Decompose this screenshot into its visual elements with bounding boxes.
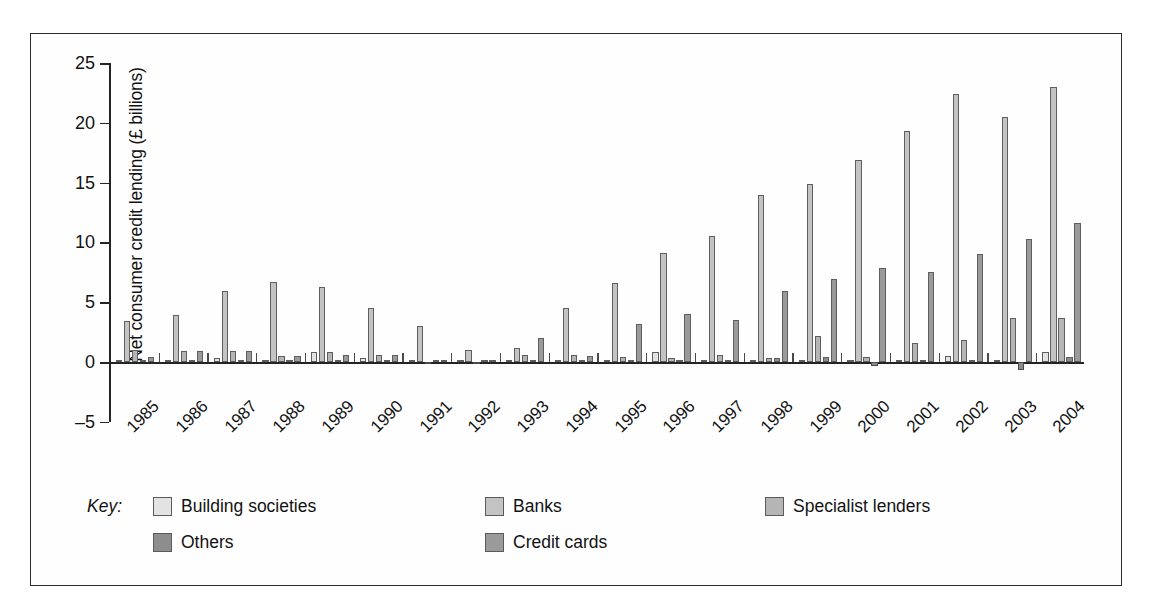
x-axis-line	[109, 362, 1084, 364]
bar-specialist-lenders-1990	[376, 355, 382, 362]
y-tick-label: 10	[75, 233, 95, 251]
bar-building-societies-1989	[311, 352, 317, 362]
y-tick-label: 25	[75, 54, 95, 72]
legend-row-2: OthersCredit cards	[87, 532, 1087, 568]
legend-key-word: Key:	[87, 496, 122, 517]
bar-building-societies-1985	[116, 360, 122, 362]
bar-banks-2002	[953, 94, 959, 362]
bar-banks-2003	[1002, 117, 1008, 362]
bar-group	[457, 63, 495, 362]
x-tick-label-2004: 2004	[1049, 397, 1089, 437]
x-tick-mark	[1036, 353, 1037, 362]
bar-building-societies-2002	[945, 356, 951, 362]
bar-credit-cards-2003	[1026, 239, 1032, 362]
y-tick-mark	[100, 242, 109, 244]
bar-others-1988	[286, 360, 292, 362]
bar-others-2004	[1066, 357, 1072, 362]
x-tick-label-1988: 1988	[269, 397, 309, 437]
x-tick-mark	[695, 353, 696, 362]
bar-banks-1985	[124, 321, 130, 362]
x-tick-mark	[207, 353, 208, 362]
x-tick-mark	[987, 353, 988, 362]
bar-banks-1987	[222, 291, 228, 362]
bar-others-2003	[1018, 362, 1024, 370]
bar-credit-cards-1987	[246, 351, 252, 362]
x-tick-mark	[841, 353, 842, 362]
legend: Key: Building societiesBanksSpecialist l…	[87, 496, 1087, 568]
bar-credit-cards-1994	[587, 356, 593, 362]
x-tick-label-1991: 1991	[416, 397, 456, 437]
bar-specialist-lenders-1986	[181, 351, 187, 362]
bar-others-1990	[384, 360, 390, 362]
bar-others-1994	[579, 360, 585, 362]
bar-building-societies-2001	[896, 360, 902, 362]
bar-group	[214, 63, 252, 362]
bar-banks-1988	[270, 282, 276, 362]
bar-group	[945, 63, 983, 362]
bar-building-societies-1990	[360, 358, 366, 362]
bar-specialist-lenders-1995	[620, 357, 626, 362]
y-tick-label: 15	[75, 174, 95, 192]
bar-banks-1998	[758, 195, 764, 362]
bar-credit-cards-1995	[636, 324, 642, 362]
x-tick-mark	[792, 353, 793, 362]
x-tick-mark	[402, 353, 403, 362]
bar-others-1989	[335, 360, 341, 362]
bar-building-societies-2003	[994, 360, 1000, 362]
legend-swatch-banks	[485, 497, 504, 516]
bar-banks-1992	[465, 350, 471, 362]
bar-specialist-lenders-1996	[668, 358, 674, 362]
bar-credit-cards-1993	[538, 338, 544, 362]
bar-credit-cards-2002	[977, 254, 983, 362]
x-tick-label-1987: 1987	[221, 397, 261, 437]
x-tick-mark	[597, 353, 598, 362]
legend-item-credit-cards: Credit cards	[485, 532, 607, 553]
figure-frame: Net consumer credit lending (£ billions)…	[30, 33, 1122, 586]
bar-group	[555, 63, 593, 362]
bar-specialist-lenders-1985	[132, 350, 138, 362]
y-tick-label: 20	[75, 114, 95, 132]
bar-building-societies-1997	[701, 360, 707, 362]
bar-banks-1986	[173, 315, 179, 362]
bar-others-2002	[969, 360, 975, 362]
x-tick-mark	[451, 353, 452, 362]
x-tick-mark	[549, 353, 550, 362]
bar-credit-cards-1989	[343, 355, 349, 362]
bar-specialist-lenders-2003	[1010, 318, 1016, 362]
x-tick-label-2002: 2002	[952, 397, 992, 437]
legend-label: Building societies	[181, 496, 316, 517]
y-tick-mark	[100, 302, 109, 304]
bar-others-1997	[725, 360, 731, 362]
bar-banks-1989	[319, 287, 325, 362]
bar-credit-cards-1996	[684, 314, 690, 362]
bar-specialist-lenders-2002	[961, 340, 967, 362]
bar-others-1985	[140, 360, 146, 362]
legend-label: Specialist lenders	[793, 496, 930, 517]
y-axis-top-cap	[100, 63, 109, 65]
bar-credit-cards-1990	[392, 355, 398, 362]
bar-credit-cards-1988	[294, 356, 300, 362]
bar-group	[799, 63, 837, 362]
bar-group	[847, 63, 885, 362]
bar-building-societies-1986	[165, 360, 171, 362]
y-tick-mark	[100, 123, 109, 125]
x-tick-label-1997: 1997	[708, 397, 748, 437]
bar-banks-1995	[612, 283, 618, 362]
x-tick-mark	[646, 353, 647, 362]
bar-group	[652, 63, 690, 362]
x-tick-label-1999: 1999	[806, 397, 846, 437]
bar-banks-1999	[807, 184, 813, 362]
legend-label: Credit cards	[513, 532, 607, 553]
bar-specialist-lenders-1999	[815, 336, 821, 362]
bar-group	[994, 63, 1032, 362]
bar-specialist-lenders-1998	[766, 358, 772, 362]
bar-banks-1996	[660, 253, 666, 362]
bar-others-1992	[481, 360, 487, 362]
bar-others-1999	[823, 357, 829, 362]
x-tick-label-2000: 2000	[854, 397, 894, 437]
bar-credit-cards-1997	[733, 320, 739, 362]
bar-building-societies-2000	[847, 360, 853, 362]
bar-banks-1990	[368, 308, 374, 362]
bar-specialist-lenders-2004	[1058, 318, 1064, 362]
bar-group	[604, 63, 642, 362]
